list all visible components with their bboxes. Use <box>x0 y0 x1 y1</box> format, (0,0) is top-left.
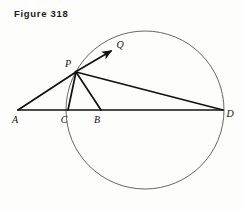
geometry-diagram: A C B D P Q <box>0 0 243 210</box>
ray-pq <box>77 51 111 71</box>
point-label-a: A <box>11 114 19 125</box>
point-label-d: D <box>225 108 234 119</box>
point-label-q: Q <box>116 39 124 50</box>
point-label-c: C <box>61 114 68 125</box>
segment-pc <box>68 72 76 110</box>
vertex-dot-p <box>74 70 77 73</box>
figure-container: Figure 318 A C B D P Q <box>0 0 243 210</box>
point-label-b: B <box>94 114 100 125</box>
segment-ap <box>18 72 76 110</box>
point-label-p: P <box>64 58 71 69</box>
